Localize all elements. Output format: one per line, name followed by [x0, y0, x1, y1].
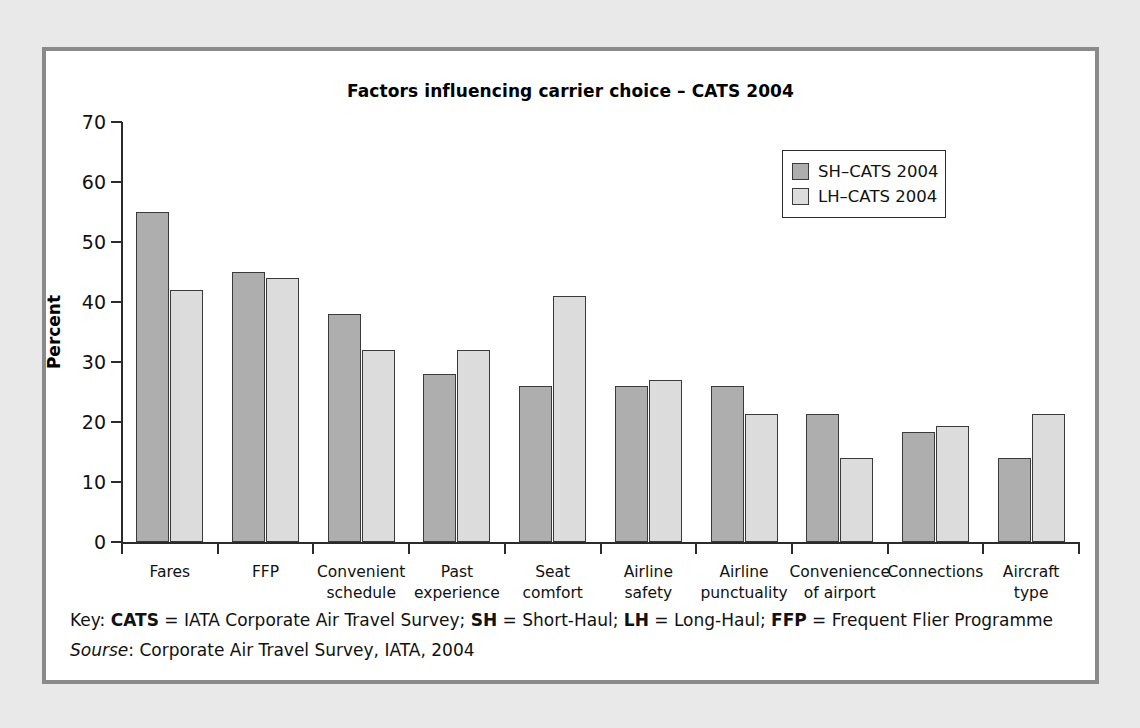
bar: [1032, 414, 1065, 542]
legend-item-sh: SH–CATS 2004: [792, 159, 935, 184]
bar: [423, 374, 456, 542]
x-tick-mark: [312, 543, 314, 554]
bar: [232, 272, 265, 542]
x-tick-mark: [1078, 543, 1080, 554]
x-tick-mark: [121, 543, 123, 554]
bar: [170, 290, 203, 542]
bar: [840, 458, 873, 542]
x-tick-mark: [504, 543, 506, 554]
y-tick-mark: [111, 301, 122, 303]
footnote-term-lh: LH: [624, 610, 649, 630]
y-tick-mark: [111, 181, 122, 183]
bar: [457, 350, 490, 542]
bar: [553, 296, 586, 542]
x-tick-mark: [887, 543, 889, 554]
y-axis-line: [121, 122, 123, 543]
footnote-key-prefix: Key:: [70, 610, 111, 630]
bar: [615, 386, 648, 542]
footnote-def-lh: = Long-Haul;: [649, 610, 771, 630]
y-tick-label: 10: [82, 471, 106, 493]
bar: [745, 414, 778, 542]
y-tick-mark: [111, 481, 122, 483]
x-tick-mark: [791, 543, 793, 554]
bar: [266, 278, 299, 542]
bar: [998, 458, 1031, 542]
footnote-def-ffp: = Frequent Flier Programme: [807, 610, 1053, 630]
y-tick-mark: [111, 361, 122, 363]
x-tick-mark: [695, 543, 697, 554]
y-tick-label: 70: [82, 111, 106, 133]
bar: [711, 386, 744, 542]
bar: [936, 426, 969, 542]
footnote-term-ffp: FFP: [771, 610, 807, 630]
x-category-label: Aircraft type: [972, 562, 1090, 604]
bar: [136, 212, 169, 542]
x-tick-mark: [217, 543, 219, 554]
figure-footnotes: Key: CATS = IATA Corporate Air Travel Su…: [70, 605, 1080, 665]
footnote-source-text: : Corporate Air Travel Survey, IATA, 200…: [128, 640, 474, 660]
y-tick-mark: [111, 241, 122, 243]
y-tick-label: 0: [94, 531, 106, 553]
footnote-source: Sourse: Corporate Air Travel Survey, IAT…: [70, 635, 1080, 665]
bar: [519, 386, 552, 542]
legend-label-sh: SH–CATS 2004: [818, 162, 938, 181]
y-tick-label: 60: [82, 171, 106, 193]
legend-swatch-icon-lh: [792, 188, 809, 205]
y-tick-mark: [111, 421, 122, 423]
footnote-key: Key: CATS = IATA Corporate Air Travel Su…: [70, 605, 1080, 635]
y-tick-label: 40: [82, 291, 106, 313]
x-tick-mark: [408, 543, 410, 554]
chart-legend: SH–CATS 2004 LH–CATS 2004: [782, 150, 946, 218]
y-tick-label: 20: [82, 411, 106, 433]
x-tick-mark: [600, 543, 602, 554]
y-axis-title: Percent: [44, 295, 64, 369]
y-tick-label: 30: [82, 351, 106, 373]
figure-panel: Factors influencing carrier choice – CAT…: [42, 47, 1099, 684]
y-tick-label: 50: [82, 231, 106, 253]
chart-title: Factors influencing carrier choice – CAT…: [46, 81, 1095, 101]
bar: [649, 380, 682, 542]
footnote-def-cats: = IATA Corporate Air Travel Survey;: [159, 610, 471, 630]
bar: [806, 414, 839, 542]
bar: [362, 350, 395, 542]
legend-label-lh: LH–CATS 2004: [818, 187, 937, 206]
x-tick-mark: [982, 543, 984, 554]
y-tick-mark: [111, 121, 122, 123]
footnote-term-sh: SH: [471, 610, 497, 630]
footnote-def-sh: = Short-Haul;: [497, 610, 624, 630]
bar: [902, 432, 935, 542]
legend-item-lh: LH–CATS 2004: [792, 184, 935, 209]
bar: [328, 314, 361, 542]
footnote-term-cats: CATS: [111, 610, 159, 630]
legend-swatch-icon-sh: [792, 163, 809, 180]
footnote-source-label: Sourse: [70, 640, 128, 660]
